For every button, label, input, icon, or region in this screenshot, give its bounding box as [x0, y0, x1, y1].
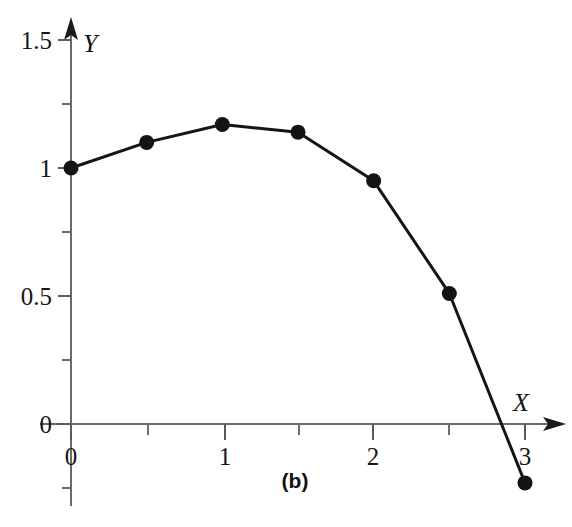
- data-point-marker: [442, 286, 457, 301]
- y-tick-label-1-5: 1.5: [0, 28, 52, 53]
- x-tick-label-2: 2: [353, 444, 393, 469]
- data-point-marker: [139, 135, 154, 150]
- x-tick-label-1: 1: [205, 444, 245, 469]
- figure-panel-b: 1.5 1 0.5 0 0 1 2 3 Y X (b): [0, 0, 572, 527]
- data-point-marker: [366, 173, 381, 188]
- data-point-marker: [518, 475, 533, 490]
- data-point-marker: [64, 161, 79, 176]
- x-tick-label-3: 3: [505, 444, 545, 469]
- y-tick-label-0-5: 0.5: [0, 284, 52, 309]
- data-point-marker: [291, 125, 306, 140]
- y-axis-label: Y: [83, 31, 97, 57]
- data-point-marker: [215, 117, 230, 132]
- y-tick-label-0: 0: [0, 412, 52, 437]
- x-tick-label-0: 0: [51, 444, 91, 469]
- panel-caption: (b): [245, 470, 345, 491]
- x-axis-label: X: [513, 390, 529, 416]
- y-tick-label-1: 1: [0, 156, 52, 181]
